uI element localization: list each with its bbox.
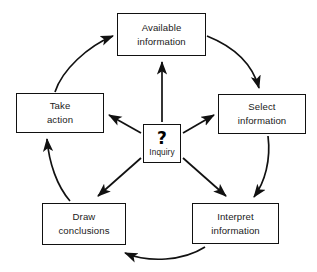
inquiry-cycle-diagram: Available information Select information… <box>0 0 317 272</box>
node-inquiry-center[interactable]: ? Inquiry <box>143 124 181 163</box>
node-draw-label-line2: conclusions <box>58 224 109 238</box>
node-available-label-line2: information <box>137 35 186 49</box>
spoke-inquiry-to-take <box>109 115 141 133</box>
node-interpret-label-line2: information <box>211 224 260 238</box>
node-interpret-information[interactable]: Interpret information <box>192 203 279 244</box>
node-select-information[interactable]: Select information <box>218 94 306 134</box>
spoke-inquiry-to-draw <box>98 158 141 196</box>
node-draw-conclusions[interactable]: Draw conclusions <box>42 203 126 245</box>
edge-draw-to-take <box>47 139 70 201</box>
spoke-inquiry-to-interpret <box>183 158 226 196</box>
node-available-information[interactable]: Available information <box>117 13 206 56</box>
node-available-label-line1: Available <box>142 21 182 35</box>
node-draw-label-line1: Draw <box>73 210 96 224</box>
node-interpret-label-line1: Interpret <box>217 210 254 224</box>
node-select-label-line1: Select <box>248 100 275 114</box>
node-take-label-line2: action <box>47 113 73 127</box>
node-take-label-line1: Take <box>50 99 71 113</box>
spoke-inquiry-to-select <box>183 115 214 133</box>
edge-available-to-select <box>207 36 259 88</box>
node-take-action[interactable]: Take action <box>16 93 104 133</box>
edge-take-to-available <box>55 36 113 92</box>
node-inquiry-label: Inquiry <box>149 148 174 157</box>
edge-interpret-to-draw <box>125 247 205 259</box>
question-mark-icon: ? <box>157 130 167 147</box>
edge-select-to-interpret <box>254 136 269 197</box>
node-select-label-line2: information <box>238 114 287 128</box>
